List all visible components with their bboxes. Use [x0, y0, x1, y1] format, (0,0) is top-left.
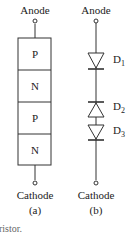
- diode-d3: [88, 125, 104, 139]
- layer-p2: P: [32, 112, 38, 124]
- diode-label-d2: D2: [113, 100, 125, 115]
- anode-label-a: Anode: [20, 4, 49, 16]
- diode-d1: [88, 53, 104, 68]
- cathode-label-a: Cathode: [17, 189, 54, 201]
- cathode-terminal-b: [94, 181, 98, 185]
- figure-caption: ristor.: [0, 223, 22, 234]
- diode-label-d1: D1: [113, 53, 125, 68]
- cathode-label-b: Cathode: [78, 189, 115, 201]
- anode-terminal-b: [94, 19, 98, 23]
- anode-terminal-a: [33, 19, 37, 23]
- diode-d2: [88, 103, 104, 117]
- circuit-drawing: [0, 0, 138, 238]
- anode-label-b: Anode: [81, 4, 110, 16]
- diode-label-d3: D3: [113, 124, 125, 139]
- layer-p1: P: [32, 48, 38, 60]
- cathode-terminal-a: [33, 181, 37, 185]
- sublabel-a: (a): [29, 204, 41, 216]
- layer-n1: N: [31, 80, 39, 92]
- sublabel-b: (b): [90, 204, 103, 216]
- layer-n2: N: [31, 144, 39, 156]
